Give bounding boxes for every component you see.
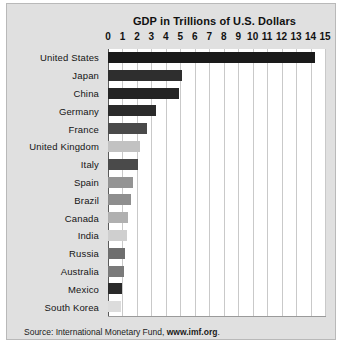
bar-row: [108, 120, 325, 138]
category-label-row: China: [15, 85, 103, 103]
x-tick-14: 14: [305, 31, 316, 42]
bar-row: [108, 102, 325, 120]
category-label-row: Canada: [15, 209, 103, 227]
category-labels: United StatesJapanChinaGermanyFranceUnit…: [15, 49, 103, 316]
x-tick-5: 5: [178, 31, 184, 42]
bar-australia[interactable]: [108, 266, 124, 277]
bar-mexico[interactable]: [108, 283, 122, 294]
bar-row: [108, 263, 325, 281]
x-tick-15: 15: [319, 31, 330, 42]
chart-panel: GDP in Trillions of U.S. Dollars 0123456…: [6, 3, 336, 340]
x-tick-12: 12: [276, 31, 287, 42]
category-label-row: Mexico: [15, 280, 103, 298]
bar-united-kingdom[interactable]: [108, 141, 140, 152]
x-tick-1: 1: [120, 31, 126, 42]
x-tick-9: 9: [235, 31, 241, 42]
category-label: India: [78, 230, 103, 241]
bar-row: [108, 280, 325, 298]
source-link[interactable]: www.imf.org: [167, 327, 218, 337]
category-label-row: India: [15, 227, 103, 245]
x-tick-0: 0: [105, 31, 111, 42]
category-label-row: United Kingdom: [15, 138, 103, 156]
category-label: China: [73, 88, 103, 99]
gridline-15: [325, 49, 326, 316]
category-label: Germany: [59, 106, 103, 117]
category-label: Mexico: [68, 284, 103, 295]
bar-row: [108, 67, 325, 85]
bar-india[interactable]: [108, 230, 127, 241]
bar-row: [108, 49, 325, 67]
bar-row: [108, 191, 325, 209]
x-axis-tick-labels: 0123456789101112131415: [102, 31, 332, 45]
bar-canada[interactable]: [108, 212, 128, 223]
bar-russia[interactable]: [108, 248, 125, 259]
x-tick-4: 4: [163, 31, 169, 42]
category-label-row: Italy: [15, 156, 103, 174]
category-label: South Korea: [45, 302, 103, 313]
category-label: Australia: [61, 266, 103, 277]
category-label-row: Japan: [15, 67, 103, 85]
category-label: Brazil: [74, 195, 103, 206]
bar-row: [108, 245, 325, 263]
x-axis-line: [108, 316, 326, 317]
bar-spain[interactable]: [108, 177, 133, 188]
category-label-row: France: [15, 120, 103, 138]
category-label: United Kingdom: [29, 141, 103, 152]
category-label-row: South Korea: [15, 298, 103, 316]
category-label-row: Spain: [15, 174, 103, 192]
source-prefix: Source: International Monetary Fund,: [24, 327, 167, 337]
x-tick-7: 7: [206, 31, 212, 42]
category-label: Spain: [74, 177, 103, 188]
chart-page: GDP in Trillions of U.S. Dollars 0123456…: [0, 0, 345, 357]
category-label: United States: [40, 52, 103, 63]
bar-row: [108, 85, 325, 103]
x-tick-2: 2: [134, 31, 140, 42]
bar-row: [108, 209, 325, 227]
category-label: France: [69, 124, 103, 135]
category-label-row: Russia: [15, 245, 103, 263]
bar-japan[interactable]: [108, 70, 182, 81]
source-note: Source: International Monetary Fund, www…: [24, 327, 220, 337]
bar-row: [108, 174, 325, 192]
x-tick-10: 10: [247, 31, 258, 42]
bar-row: [108, 227, 325, 245]
chart-title: GDP in Trillions of U.S. Dollars: [102, 15, 327, 27]
category-label: Canada: [65, 213, 103, 224]
x-tick-3: 3: [149, 31, 155, 42]
category-label-row: United States: [15, 49, 103, 67]
category-label: Japan: [72, 70, 103, 81]
x-tick-11: 11: [262, 31, 273, 42]
category-label: Russia: [69, 248, 103, 259]
category-label: Italy: [81, 159, 103, 170]
bar-south-korea[interactable]: [108, 301, 121, 312]
x-tick-8: 8: [221, 31, 227, 42]
bar-row: [108, 138, 325, 156]
category-label-row: Germany: [15, 102, 103, 120]
bar-china[interactable]: [108, 88, 179, 99]
bar-brazil[interactable]: [108, 194, 131, 205]
plot-area: [108, 49, 325, 316]
bar-rows: [108, 49, 325, 316]
bar-row: [108, 298, 325, 316]
bar-row: [108, 156, 325, 174]
category-label-row: Australia: [15, 263, 103, 281]
bar-france[interactable]: [108, 123, 147, 134]
category-label-row: Brazil: [15, 191, 103, 209]
bar-germany[interactable]: [108, 105, 156, 116]
bar-italy[interactable]: [108, 159, 138, 170]
source-suffix: .: [217, 327, 219, 337]
x-tick-6: 6: [192, 31, 198, 42]
x-tick-13: 13: [291, 31, 302, 42]
bar-united-states[interactable]: [108, 52, 315, 63]
